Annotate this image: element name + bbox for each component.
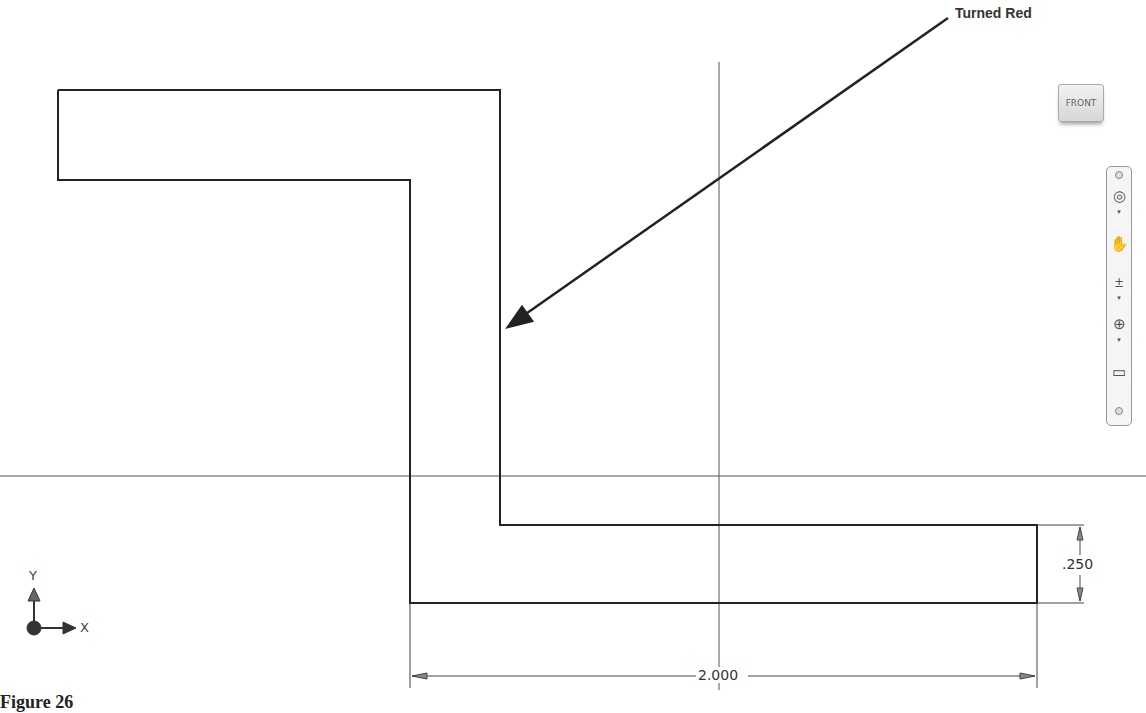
viewcube-face-label: FRONT <box>1066 98 1097 108</box>
callout-label: Turned Red <box>955 5 1032 21</box>
chevron-down-icon[interactable]: ▼ <box>1107 337 1131 343</box>
navbar-close-icon[interactable] <box>1115 171 1123 179</box>
navbar-options-icon[interactable] <box>1115 407 1123 415</box>
callout-arrow <box>508 18 948 327</box>
axes <box>0 62 1146 690</box>
dimension-vertical-value[interactable]: .250 <box>1062 556 1093 572</box>
figure-caption: Figure 26 <box>0 692 73 713</box>
viewcube[interactable]: FRONT <box>1058 84 1104 122</box>
navigation-bar[interactable]: ◎ ▼ ✋ ± ▼ ⊕ ▼ ▭ <box>1106 166 1132 426</box>
chevron-down-icon[interactable]: ▼ <box>1107 209 1131 215</box>
steering-wheel-icon[interactable]: ◎ <box>1107 187 1131 205</box>
coordinate-triad <box>27 588 76 635</box>
orbit-icon[interactable]: ⊕ <box>1107 315 1131 333</box>
zoom-icon[interactable]: ± <box>1107 273 1131 290</box>
triad-y-label: Y <box>29 568 37 583</box>
triad-x-label: X <box>80 620 89 635</box>
sketch-profile[interactable] <box>58 90 1037 603</box>
dimension-horizontal-value[interactable]: 2.000 <box>698 667 738 683</box>
look-at-icon[interactable]: ▭ <box>1107 363 1131 381</box>
chevron-down-icon[interactable]: ▼ <box>1107 295 1131 301</box>
pan-icon[interactable]: ✋ <box>1107 235 1131 253</box>
